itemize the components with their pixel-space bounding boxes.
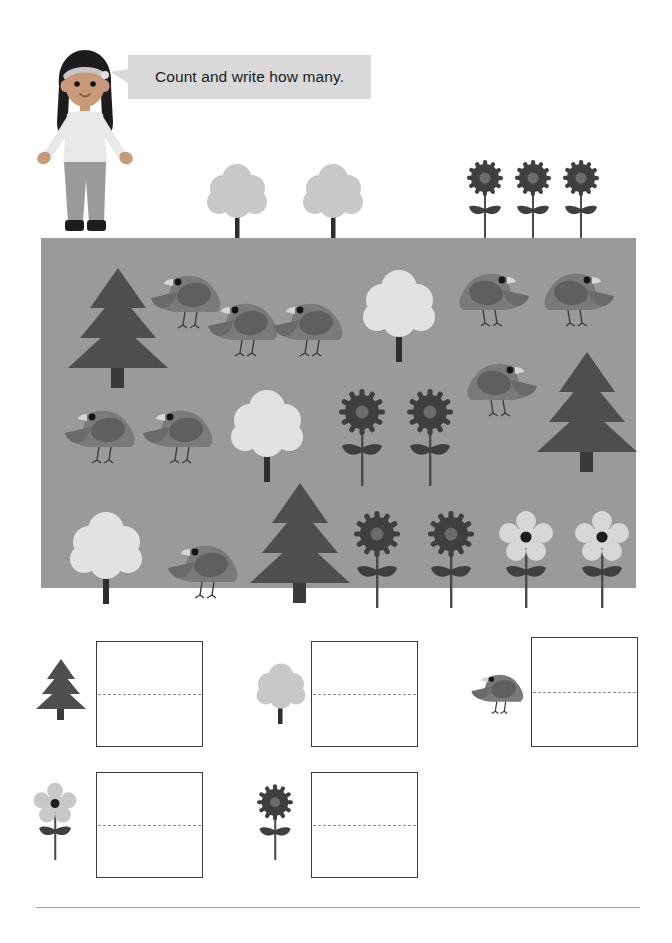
bird-icon xyxy=(470,668,528,716)
sunflower-icon xyxy=(426,508,476,608)
sunflower-icon xyxy=(465,157,505,239)
scene-daisy xyxy=(499,510,553,612)
bird-icon xyxy=(271,296,349,358)
counting-scene-panel xyxy=(41,238,636,588)
daisy-icon xyxy=(499,510,553,608)
worksheet-page: Count and write how many. xyxy=(0,0,672,943)
scene-pine-tree xyxy=(248,481,352,607)
sunflower-icon xyxy=(253,782,297,860)
answer-box-midline xyxy=(313,825,416,826)
answer-icon-pine-tree xyxy=(35,658,87,724)
bird-icon xyxy=(63,403,141,465)
round-tree-icon xyxy=(359,266,439,362)
answer-box-midline xyxy=(533,692,636,693)
answer-icon-daisy xyxy=(33,782,77,864)
scene-daisy xyxy=(575,510,629,612)
sunflower-icon xyxy=(337,386,387,486)
sunflower-icon xyxy=(513,157,553,239)
footer-rule xyxy=(36,907,640,908)
answer-box-midline xyxy=(98,694,201,695)
scene-bird xyxy=(166,538,244,604)
scene-bird xyxy=(453,266,531,332)
answer-icon-sunflower xyxy=(253,782,297,864)
sunflower-icon xyxy=(405,386,455,486)
answer-box-pine-tree[interactable] xyxy=(96,641,203,747)
scene-bird xyxy=(141,403,219,469)
round-tree-icon xyxy=(253,662,309,724)
scene-bird xyxy=(538,266,616,332)
daisy-icon xyxy=(33,782,77,860)
bird-icon xyxy=(461,356,539,418)
answer-box-bird[interactable] xyxy=(531,637,638,747)
pine-tree-icon xyxy=(35,658,87,720)
bubble-tail-icon xyxy=(111,69,128,83)
sunflower-prop xyxy=(465,157,505,243)
sunflower-icon xyxy=(352,508,402,608)
scene-round-tree xyxy=(359,266,439,366)
pine-tree-icon xyxy=(248,481,352,603)
bird-icon xyxy=(141,403,219,465)
scene-bird xyxy=(461,356,539,422)
scene-sunflower xyxy=(426,508,476,612)
round-tree-icon xyxy=(300,160,367,238)
answer-box-sunflower[interactable] xyxy=(311,772,418,878)
sunflower-prop xyxy=(513,157,553,243)
answer-icon-bird xyxy=(470,668,528,720)
pine-tree-icon xyxy=(535,350,639,472)
round-tree-prop xyxy=(300,160,367,242)
round-tree-prop xyxy=(204,160,271,242)
instruction-bubble: Count and write how many. xyxy=(128,55,371,99)
scene-bird xyxy=(271,296,349,362)
instruction-text: Count and write how many. xyxy=(128,55,371,99)
answer-icon-round-tree xyxy=(253,662,309,728)
daisy-icon xyxy=(575,510,629,608)
scene-sunflower xyxy=(405,386,455,490)
sunflower-prop xyxy=(561,157,601,243)
scene-round-tree xyxy=(66,508,146,608)
round-tree-icon xyxy=(204,160,271,238)
answer-box-midline xyxy=(98,825,201,826)
answer-box-round-tree[interactable] xyxy=(311,641,418,747)
sunflower-icon xyxy=(561,157,601,239)
scene-bird xyxy=(63,403,141,469)
scene-sunflower xyxy=(352,508,402,612)
bird-icon xyxy=(538,266,616,328)
answer-box-daisy[interactable] xyxy=(96,772,203,878)
bird-icon xyxy=(453,266,531,328)
scene-round-tree xyxy=(227,386,307,486)
answer-box-midline xyxy=(313,694,416,695)
bird-icon xyxy=(166,538,244,600)
scene-sunflower xyxy=(337,386,387,490)
round-tree-icon xyxy=(227,386,307,482)
round-tree-icon xyxy=(66,508,146,604)
scene-pine-tree xyxy=(535,350,639,476)
